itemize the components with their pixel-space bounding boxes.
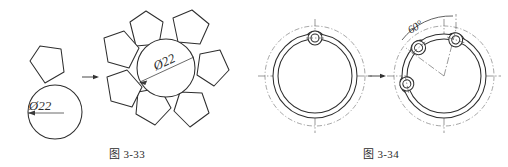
figure-3-34-caption: 图 3-34 [254,145,508,161]
figure-3-33-drawing: Ø22 [0,0,254,145]
ring-inner-circle [278,39,352,113]
array-pentagon-2 [173,10,209,44]
array-pentagon-4 [174,92,209,127]
figure-sheet: Ø22 [0,0,508,167]
before-group-pentagon-circle: Ø22 [28,46,82,139]
array-pentagon-3 [197,50,229,86]
figure-3-34-drawing: 60° [254,0,508,145]
after-group-pattern: Ø22 [104,10,229,127]
source-dimension-text: Ø22 [28,98,52,113]
after-group-ring: 60° [387,14,501,133]
transform-arrow-34 [368,74,386,79]
figure-3-34: 60° 图 3-34 [254,0,508,167]
figure-3-33: Ø22 [0,0,254,167]
source-pentagon [30,46,64,83]
before-group-ring [258,19,372,133]
figure-3-33-caption: 图 3-33 [0,145,254,161]
transform-arrow-33 [82,75,99,80]
